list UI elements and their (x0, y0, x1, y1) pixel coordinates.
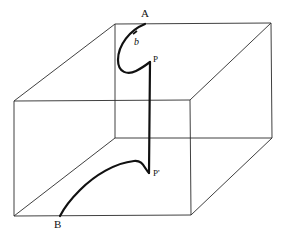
path-curve-vertical (149, 62, 150, 173)
diagram-canvas: A b P P' B (0, 0, 286, 241)
label-P: P (153, 54, 158, 64)
path-curve-upper (118, 24, 150, 73)
path-curve-lower (60, 161, 149, 216)
box-depth-edges (14, 23, 272, 216)
label-b: b (134, 36, 139, 47)
label-B: B (54, 218, 61, 230)
label-A: A (141, 7, 149, 19)
box-front-face (14, 100, 191, 216)
label-P-prime: P' (153, 168, 160, 178)
